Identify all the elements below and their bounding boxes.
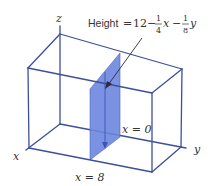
equals-sign: = (123, 17, 132, 30)
x-axis (26, 124, 60, 150)
constant-term: 12 (133, 17, 147, 30)
back-right-vertical (181, 69, 182, 147)
top-left-edge (28, 34, 60, 68)
plane-label-x0: x = 0 (122, 123, 151, 136)
height-word: Height (88, 17, 118, 29)
y-axis-label: y (193, 143, 201, 156)
x-axis-label: x (13, 150, 20, 163)
minus-sign-1: − (147, 17, 156, 30)
minus-sign-2: − (172, 17, 181, 30)
z-axis-label: z (55, 12, 62, 25)
top-back-edge (60, 34, 182, 69)
var-x: x (163, 17, 170, 30)
solid-box-diagram: z x y x = 0 x = 8 Height = 12 − 1 4 x − … (0, 0, 213, 186)
plane-label-x8: x = 8 (75, 171, 104, 184)
frac1-denominator: 4 (156, 26, 161, 35)
frac2-numerator: 1 (183, 14, 188, 23)
height-equation: Height = 12 − 1 4 x − 1 8 y (88, 14, 197, 35)
var-y: y (189, 17, 197, 30)
frac1-numerator: 1 (156, 14, 161, 23)
top-right-edge (152, 69, 182, 93)
frac2-denominator: 8 (183, 26, 188, 35)
bottom-right-edge (152, 147, 181, 172)
front-left-vertical (28, 68, 29, 148)
